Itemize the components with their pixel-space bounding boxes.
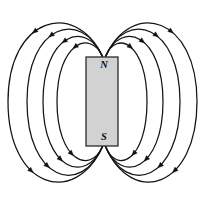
field-direction-arrow: [127, 43, 133, 48]
field-line-canvas: N S: [0, 0, 209, 210]
field-direction-arrow: [73, 43, 79, 48]
field-direction-arrow: [32, 28, 38, 33]
south-pole-label: S: [101, 131, 107, 142]
field-direction-arrow: [62, 38, 68, 43]
field-line: [106, 23, 198, 182]
field-direction-arrow: [49, 32, 55, 37]
north-pole-label: N: [99, 59, 108, 70]
magnetic-field-diagram: N S: [0, 0, 209, 210]
field-direction-arrow: [139, 38, 145, 43]
field-direction-arrow: [153, 32, 159, 37]
